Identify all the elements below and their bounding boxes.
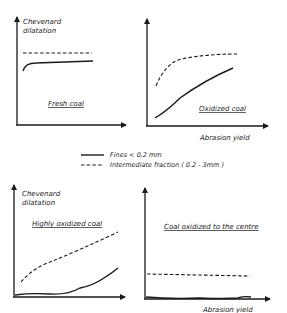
x-axis-label: Abrasion yield [202,306,253,313]
series-fines [15,268,118,295]
figure: Chevenard dilatation Fresh coal Oxidized… [0,0,287,313]
series-intermediate [147,274,250,276]
y-axis-label: dilatation [22,199,55,207]
panel-title: Coal oxidized to the centre [164,223,259,231]
series-fines [146,297,251,299]
y-axis-label: Chevenard [22,190,61,198]
series-intermediate [156,54,237,86]
series-intermediate [21,232,118,282]
y-axis-label: dilatation [23,27,56,35]
panel-title: Fresh coal [48,100,84,108]
panel-title: Highly oxidized coal [32,220,102,228]
panel-oxidized-coal: Oxidized coal Abrasion yield [146,19,268,142]
y-axis-label: Chevenard [23,18,62,26]
legend-solid-label: Fines < 0.2 mm [110,151,162,159]
legend: Fines < 0.2 mm Intermediate fraction ( 0… [81,151,224,169]
series-fines [23,61,93,71]
panel-highly-oxidized-coal: Chevenard dilatation Highly oxidized coa… [13,185,125,297]
legend-dashed-label: Intermediate fraction ( 0.2 - 3mm ) [110,161,224,169]
panel-coal-oxidized-to-centre: Coal oxidized to the centre Abrasion yie… [144,188,270,313]
x-axis-label: Abrasion yield [199,134,250,142]
panel-title: Oxidized coal [199,105,246,113]
panel-fresh-coal: Chevenard dilatation Fresh coal [16,17,126,125]
